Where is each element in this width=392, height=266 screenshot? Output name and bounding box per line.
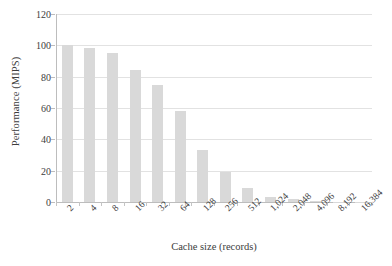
bar-256 [220,172,231,202]
y-tick-mark-60 [51,108,55,109]
bar-2 [62,45,73,202]
y-tick-label-100: 100 [12,40,56,51]
bar-16 [130,70,141,202]
y-tick-mark-40 [51,139,55,140]
y-tick-label-120: 120 [12,9,56,20]
y-tick-mark-100 [51,45,55,46]
x-axis-title: Cache size (records) [56,241,372,252]
bar-64 [175,111,186,202]
bar-32 [152,85,163,202]
y-tick-label-60: 60 [12,103,56,114]
y-tick-mark-120 [51,14,55,15]
bar-128 [197,150,208,202]
y-tick-label-40: 40 [12,134,56,145]
y-tick-mark-80 [51,77,55,78]
x-axis-tick-labels: 2481632641282565121,0242,0484,0968,19216… [56,206,386,238]
y-tick-label-20: 20 [12,165,56,176]
y-axis-tick-labels: 020406080100120 [0,14,56,202]
bar-4 [84,48,95,202]
y-tick-label-0: 0 [12,197,56,208]
y-tick-label-80: 80 [12,71,56,82]
y-tick-mark-20 [51,171,55,172]
y-tick-mark-0 [51,202,55,203]
bar-8 [107,53,118,202]
bars [56,14,372,202]
plot-area [56,14,372,202]
bar-chart-figure: Performance (MIPS) 020406080100120 24816… [0,0,392,266]
